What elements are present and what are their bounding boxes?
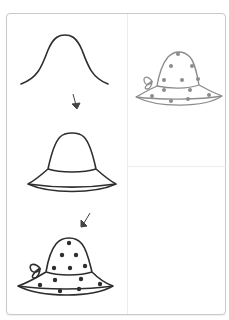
step-3-polka-dot-hat [18,238,113,295]
step-1-crown-curve [21,35,108,84]
arrow-down-icon [72,94,80,109]
arrow-down-left-icon [81,213,90,227]
drawing-canvas [0,0,229,320]
example-finished-hat [136,52,222,105]
step-2-hat-outline [28,133,116,192]
